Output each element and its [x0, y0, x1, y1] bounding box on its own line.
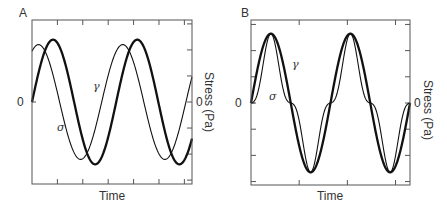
panel-a-frame	[32, 20, 192, 184]
panel-b-zero-left: 0	[235, 96, 242, 110]
panel-a-gamma-label: γ	[93, 80, 100, 93]
panel-b-chart: B 0 0 Time Stress (Pa) γ σ	[235, 6, 435, 203]
panel-b-sigma-label: σ	[269, 90, 277, 103]
stress-curve	[251, 34, 410, 173]
panel-b-zero-right: 0	[414, 96, 421, 110]
panel-a-zero-right: 0	[196, 95, 203, 109]
panel-a-letter: A	[19, 6, 27, 20]
panel-b-letter: B	[241, 6, 249, 20]
panel-a-ticks	[32, 20, 192, 184]
panel-b-xlabel: Time	[317, 189, 344, 203]
panel-b-ylabel-right: Stress (Pa)	[421, 80, 435, 140]
strain-curve	[32, 40, 192, 165]
panel-a-zero-left: 0	[17, 95, 24, 109]
panel-b-gamma-label: γ	[292, 58, 299, 71]
panel-a-ylabel-right: Stress (Pa)	[202, 72, 216, 132]
figure: A 0 0 Time Stress (Pa) γ σ B 0 0 Time St…	[0, 0, 447, 208]
panel-a-chart: A 0 0 Time Stress (Pa) γ σ	[17, 6, 216, 203]
panel-a-curves	[32, 40, 192, 165]
panel-a-sigma-label: σ	[57, 121, 65, 134]
panel-a-xlabel: Time	[99, 189, 126, 203]
panel-b-curves	[251, 34, 410, 173]
